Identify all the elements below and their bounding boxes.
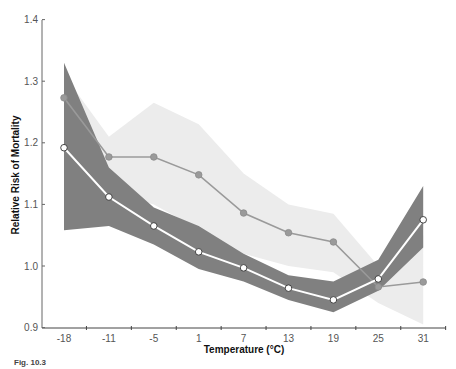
white-series-point (285, 285, 292, 292)
white-series-point (420, 217, 427, 224)
y-tick-label: 1.4 (24, 14, 38, 25)
white-series-point (375, 276, 382, 283)
white-series-point (151, 223, 158, 230)
white-series-point (106, 194, 113, 201)
gray-series-point (61, 95, 68, 102)
white-series-point (240, 265, 247, 272)
x-tick-label: 13 (283, 333, 295, 344)
y-tick-label: 1.2 (24, 137, 38, 148)
x-tick-label: 25 (373, 333, 385, 344)
y-axis-title: Relative Risk of Mortality (10, 115, 21, 234)
gray-series-point (285, 229, 292, 236)
gray-series-point (375, 284, 382, 291)
y-tick-label: 1.1 (24, 199, 38, 210)
white-series-point (195, 249, 202, 256)
x-tick-label: -18 (57, 333, 72, 344)
x-tick-label: -11 (102, 333, 116, 344)
x-axis-title: Temperature (°C) (204, 344, 285, 355)
line-chart: 0.91.01.11.21.31.4 -18-11-51713192531 Te… (0, 0, 456, 369)
gray-series-point (240, 210, 247, 217)
white-series-point (330, 297, 337, 304)
x-tick-label: 19 (328, 333, 340, 344)
x-tick-label: 7 (241, 333, 247, 344)
gray-series-point (106, 154, 113, 161)
gray-series-point (420, 279, 427, 286)
x-axis-ticks: -18-11-51713192531 (57, 326, 446, 344)
x-tick-label: -5 (149, 333, 158, 344)
y-tick-label: 1.0 (24, 261, 38, 272)
y-tick-label: 1.3 (24, 76, 38, 87)
x-tick-label: 31 (418, 333, 430, 344)
x-tick-label: 1 (196, 333, 202, 344)
gray-series-point (330, 239, 337, 246)
confidence-bands (64, 63, 423, 325)
gray-series-point (195, 172, 202, 179)
white-series-point (61, 144, 68, 151)
gray-series-point (151, 154, 158, 161)
y-tick-label: 0.9 (24, 322, 38, 333)
figure-caption: Fig. 10.3 (14, 358, 46, 367)
